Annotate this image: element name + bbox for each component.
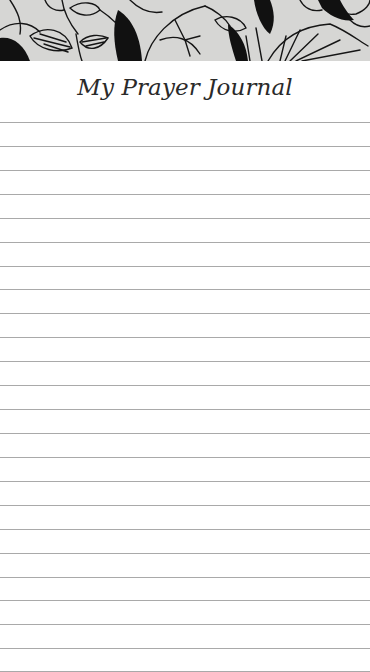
ruled-line: [0, 529, 370, 530]
ruled-line: [0, 433, 370, 434]
ruled-line: [0, 385, 370, 386]
ruled-line: [0, 505, 370, 506]
ruled-line: [0, 481, 370, 482]
ruled-line: [0, 577, 370, 578]
ruled-line: [0, 218, 370, 219]
ruled-line: [0, 146, 370, 147]
ruled-line: [0, 122, 370, 123]
ruled-line: [0, 457, 370, 458]
ruled-line: [0, 289, 370, 290]
ruled-line: [0, 409, 370, 410]
ruled-line: [0, 361, 370, 362]
ruled-line: [0, 242, 370, 243]
ruled-line: [0, 553, 370, 554]
ruled-line: [0, 170, 370, 171]
ruled-lines: [0, 0, 370, 672]
ruled-line: [0, 266, 370, 267]
ruled-line: [0, 313, 370, 314]
ruled-line: [0, 337, 370, 338]
ruled-line: [0, 624, 370, 625]
ruled-line: [0, 194, 370, 195]
ruled-line: [0, 648, 370, 649]
ruled-line: [0, 600, 370, 601]
